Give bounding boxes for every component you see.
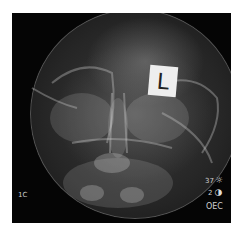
manufacturer-label: OEC [206, 202, 223, 211]
image-label: 1C [18, 191, 27, 199]
half-circle-icon: ◑ [214, 188, 222, 197]
contrast-value: 2 [208, 189, 212, 197]
left-side-marker: L [148, 65, 179, 97]
contrast-indicator: 2 ◑ [208, 188, 222, 197]
skull-structure [12, 13, 231, 223]
brightness-value: 37 [205, 177, 214, 185]
brightness-indicator: 37 ☼ [205, 176, 223, 185]
sun-icon: ☼ [215, 176, 223, 185]
xray-frame: L [12, 13, 231, 223]
